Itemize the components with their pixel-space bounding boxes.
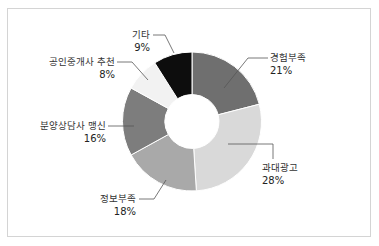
slice-label: 경험부족 [270,52,306,63]
slice-label: 공인중개사 추천 [49,56,115,67]
donut-slice [192,52,259,115]
slice-percent: 8% [49,68,115,81]
label-기타: 기타 9% [132,28,150,54]
label-정보부족: 정보부족 18% [100,192,136,218]
slice-percent: 18% [100,205,136,218]
slice-percent: 21% [270,64,306,77]
donut-slice [194,104,262,191]
slice-label: 분양상담사 맹신 [40,120,106,131]
leader-line-기타 [153,35,174,53]
slice-label: 기타 [132,29,150,40]
slice-percent: 16% [40,132,106,145]
donut-slices [122,52,261,191]
label-경험부족: 경험부족 21% [270,51,306,77]
slice-percent: 9% [132,41,150,54]
slice-label: 정보부족 [100,193,136,204]
slice-percent: 28% [262,174,298,187]
label-과대광고: 과대광고 28% [262,161,298,187]
label-공인중개사-추천: 공인중개사 추천 8% [49,55,115,81]
slice-label: 과대광고 [262,162,298,173]
label-분양상담사-맹신: 분양상담사 맹신 16% [40,119,106,145]
